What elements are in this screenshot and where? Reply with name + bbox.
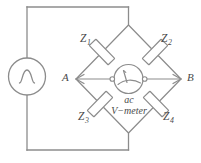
ac-source-symbol xyxy=(9,58,46,95)
circuit-diagram-canvas: Z1 Z2 Z3 Z4 A B ac V−meter xyxy=(0,0,201,163)
impedance-label-z1: Z1 xyxy=(80,33,91,47)
impedance-label-z2: Z2 xyxy=(161,33,172,47)
voltmeter-circle xyxy=(114,65,143,94)
voltmeter-caption: ac V−meter xyxy=(104,95,154,116)
node-label-a: A xyxy=(62,72,69,83)
impedance-label-z4: Z4 xyxy=(163,111,174,125)
circuit-schematic-svg xyxy=(0,0,201,163)
node-label-b: B xyxy=(187,72,194,83)
voltmeter-caption-line1: ac xyxy=(124,94,133,105)
ac-source-circle xyxy=(9,58,46,95)
voltmeter-caption-line2: V−meter xyxy=(104,106,154,116)
ac-voltmeter-symbol xyxy=(110,65,147,94)
voltmeter-terminal-right xyxy=(142,77,147,82)
voltmeter-terminal-left xyxy=(110,77,115,82)
impedance-label-z3: Z3 xyxy=(78,111,89,125)
